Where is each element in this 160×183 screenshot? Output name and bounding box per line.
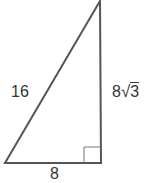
vertical-leg-radicand: 3 [130,82,139,100]
vertical-leg-label: 8√3 [112,83,139,100]
vertical-leg-coefficient: 8 [112,83,121,100]
right-angle-marker [84,147,101,163]
hypotenuse-label: 16 [11,84,29,100]
base-label: 8 [50,166,59,182]
radical-sign: √ [121,82,130,101]
triangle [5,1,101,163]
